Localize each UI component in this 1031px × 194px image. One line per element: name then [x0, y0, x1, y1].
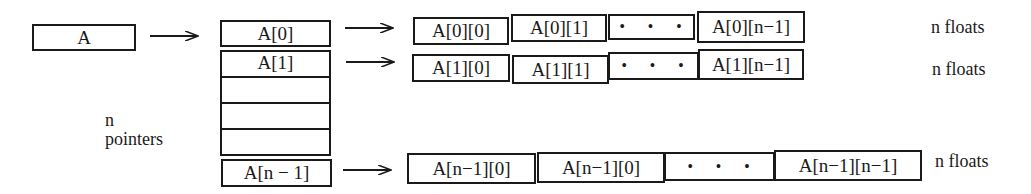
row0-cell-0: A[0][0] [413, 17, 509, 45]
root-pointer-box: A [32, 24, 136, 51]
ellipsis-dots: • • • [622, 58, 694, 74]
cell-label: A[1][0] [432, 57, 490, 79]
rown1-cell-0: A[n−1][0] [407, 153, 536, 184]
row1-cell-1: A[1][1] [512, 55, 609, 84]
rown1-cell-last: A[n−1][n−1] [774, 150, 922, 181]
ellipsis-dots: • • • [688, 159, 760, 175]
rown1-ellipsis: • • • [664, 152, 775, 181]
cell-label: A[n−1][0] [432, 158, 510, 180]
pointers-caption-word: pointers [105, 129, 163, 149]
cell-label: A[0][0] [432, 20, 490, 42]
pointer-cell-0: A[0] [220, 20, 331, 47]
cell-label: A[1][1] [531, 59, 589, 81]
root-label: A [77, 27, 91, 49]
rown1-cell-1: A[n−1][0] [537, 152, 665, 183]
row0-cell-last: A[0][n−1] [697, 11, 805, 43]
row0-caption: n floats [931, 17, 985, 37]
cell-label: A[n−1][n−1] [799, 155, 897, 177]
cell-label: A[1][n−1] [712, 54, 790, 76]
cell-label: A[0][n−1] [712, 16, 790, 38]
rown1-caption: n floats [935, 151, 989, 171]
pointer-cell-2 [220, 76, 331, 104]
pointers-caption-n: n [105, 110, 114, 130]
cell-label: A[0][1] [530, 17, 588, 39]
pointer-cell-last: A[n − 1] [221, 159, 332, 187]
pointer-cell-label: A[0] [258, 23, 294, 45]
pointer-cell-4 [220, 128, 331, 156]
row0-cell-1: A[0][1] [511, 14, 607, 42]
row0-ellipsis: • • • [608, 14, 695, 40]
row1-ellipsis: • • • [608, 52, 699, 80]
ellipsis-dots: • • • [620, 19, 692, 35]
pointer-cell-3 [220, 102, 331, 130]
row1-cell-last: A[1][n−1] [698, 49, 804, 80]
pointer-cell-1: A[1] [220, 50, 331, 78]
cell-label: A[n−1][0] [562, 157, 640, 179]
pointer-cell-label: A[1] [258, 52, 294, 74]
pointer-cell-label: A[n − 1] [244, 162, 310, 184]
row1-caption: n floats [932, 59, 986, 79]
row1-cell-0: A[1][0] [412, 54, 510, 82]
